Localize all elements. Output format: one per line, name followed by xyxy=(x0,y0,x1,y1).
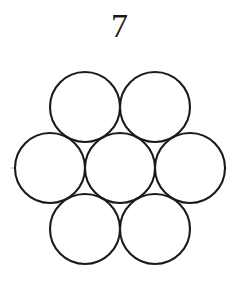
packed-circle-bottom-left xyxy=(50,194,120,264)
packed-circle-bottom-right xyxy=(120,194,190,264)
packed-circle-top-left xyxy=(50,72,120,142)
figure-container: 7 xyxy=(0,0,239,286)
packed-circle-center xyxy=(85,133,155,203)
packed-circle-top-right xyxy=(120,72,190,142)
circles-group xyxy=(15,72,225,264)
packed-circle-middle-right xyxy=(155,133,225,203)
packed-circle-middle-left xyxy=(15,133,85,203)
circle-packing-diagram xyxy=(0,0,239,286)
